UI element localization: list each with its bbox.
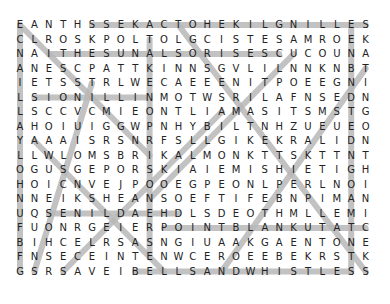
grid-letter[interactable]: S: [258, 47, 272, 61]
grid-letter[interactable]: I: [42, 47, 56, 61]
grid-letter[interactable]: B: [13, 236, 27, 250]
grid-letter[interactable]: S: [186, 265, 200, 279]
grid-letter[interactable]: S: [143, 163, 157, 177]
grid-letter[interactable]: A: [128, 192, 142, 206]
grid-letter[interactable]: O: [143, 105, 157, 119]
grid-letter[interactable]: G: [215, 134, 229, 148]
grid-letter[interactable]: F: [200, 192, 214, 206]
grid-letter[interactable]: S: [99, 18, 113, 32]
grid-letter[interactable]: O: [42, 120, 56, 134]
grid-letter[interactable]: G: [272, 18, 286, 32]
grid-letter[interactable]: I: [258, 62, 272, 76]
grid-letter[interactable]: S: [27, 105, 41, 119]
grid-letter[interactable]: C: [56, 236, 70, 250]
grid-letter[interactable]: A: [128, 236, 142, 250]
grid-letter[interactable]: S: [157, 192, 171, 206]
grid-letter[interactable]: I: [200, 105, 214, 119]
grid-letter[interactable]: N: [13, 47, 27, 61]
grid-letter[interactable]: H: [171, 120, 185, 134]
grid-letter[interactable]: E: [114, 18, 128, 32]
grid-letter[interactable]: I: [301, 18, 315, 32]
grid-letter[interactable]: I: [56, 192, 70, 206]
grid-letter[interactable]: I: [71, 134, 85, 148]
grid-letter[interactable]: R: [128, 149, 142, 163]
grid-letter[interactable]: E: [330, 91, 344, 105]
grid-letter[interactable]: E: [200, 76, 214, 90]
grid-letter[interactable]: B: [272, 192, 286, 206]
grid-letter[interactable]: A: [56, 134, 70, 148]
grid-letter[interactable]: E: [215, 178, 229, 192]
grid-letter[interactable]: N: [27, 62, 41, 76]
grid-letter[interactable]: P: [128, 178, 142, 192]
grid-letter[interactable]: T: [258, 207, 272, 221]
grid-letter[interactable]: A: [13, 62, 27, 76]
grid-letter[interactable]: M: [157, 91, 171, 105]
grid-letter[interactable]: L: [56, 149, 70, 163]
grid-letter[interactable]: L: [330, 18, 344, 32]
grid-letter[interactable]: G: [186, 33, 200, 47]
grid-letter[interactable]: P: [85, 62, 99, 76]
grid-letter[interactable]: I: [229, 192, 243, 206]
grid-letter[interactable]: I: [85, 207, 99, 221]
grid-letter[interactable]: S: [143, 236, 157, 250]
grid-letter[interactable]: G: [27, 163, 41, 177]
grid-letter[interactable]: N: [272, 221, 286, 235]
grid-letter[interactable]: T: [315, 221, 329, 235]
grid-letter[interactable]: E: [128, 105, 142, 119]
grid-letter[interactable]: D: [344, 134, 358, 148]
grid-letter[interactable]: E: [99, 221, 113, 235]
grid-letter[interactable]: P: [200, 178, 214, 192]
grid-letter[interactable]: W: [200, 91, 214, 105]
grid-letter[interactable]: V: [229, 62, 243, 76]
grid-letter[interactable]: S: [99, 149, 113, 163]
grid-letter[interactable]: I: [229, 134, 243, 148]
grid-letter[interactable]: K: [128, 18, 142, 32]
grid-letter[interactable]: P: [272, 76, 286, 90]
grid-letter[interactable]: A: [243, 105, 257, 119]
grid-letter[interactable]: S: [315, 91, 329, 105]
grid-letter[interactable]: N: [71, 178, 85, 192]
grid-letter[interactable]: H: [258, 265, 272, 279]
grid-letter[interactable]: I: [114, 221, 128, 235]
grid-letter[interactable]: I: [56, 120, 70, 134]
grid-letter[interactable]: T: [56, 47, 70, 61]
grid-letter[interactable]: E: [287, 250, 301, 264]
grid-letter[interactable]: I: [27, 236, 41, 250]
grid-letter[interactable]: C: [71, 62, 85, 76]
grid-letter[interactable]: G: [344, 163, 358, 177]
grid-letter[interactable]: L: [114, 76, 128, 90]
grid-letter[interactable]: T: [258, 149, 272, 163]
grid-letter[interactable]: I: [272, 105, 286, 119]
grid-letter[interactable]: P: [99, 33, 113, 47]
grid-letter[interactable]: A: [128, 207, 142, 221]
grid-letter[interactable]: O: [330, 236, 344, 250]
grid-letter[interactable]: R: [215, 250, 229, 264]
grid-letter[interactable]: O: [229, 250, 243, 264]
grid-letter[interactable]: I: [243, 91, 257, 105]
grid-letter[interactable]: I: [128, 91, 142, 105]
grid-letter[interactable]: E: [85, 163, 99, 177]
grid-letter[interactable]: I: [85, 120, 99, 134]
grid-letter[interactable]: T: [359, 149, 373, 163]
grid-letter[interactable]: E: [143, 265, 157, 279]
grid-letter[interactable]: A: [13, 120, 27, 134]
grid-letter[interactable]: C: [359, 221, 373, 235]
grid-letter[interactable]: S: [359, 265, 373, 279]
grid-letter[interactable]: L: [27, 149, 41, 163]
grid-letter[interactable]: T: [171, 18, 185, 32]
grid-letter[interactable]: T: [215, 192, 229, 206]
grid-letter[interactable]: E: [99, 265, 113, 279]
grid-letter[interactable]: Q: [27, 207, 41, 221]
grid-letter[interactable]: N: [301, 62, 315, 76]
grid-letter[interactable]: C: [157, 18, 171, 32]
grid-letter[interactable]: T: [258, 76, 272, 90]
grid-letter[interactable]: A: [71, 265, 85, 279]
grid-letter[interactable]: B: [114, 149, 128, 163]
grid-letter[interactable]: E: [128, 221, 142, 235]
grid-letter[interactable]: V: [71, 105, 85, 119]
grid-letter[interactable]: M: [85, 149, 99, 163]
grid-letter[interactable]: N: [344, 76, 358, 90]
grid-letter[interactable]: C: [200, 33, 214, 47]
grid-letter[interactable]: N: [359, 192, 373, 206]
grid-letter[interactable]: U: [114, 47, 128, 61]
